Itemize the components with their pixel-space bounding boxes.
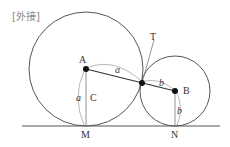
label-m: M — [81, 129, 90, 140]
point-a — [83, 66, 89, 72]
label-n: N — [171, 129, 178, 140]
label-t: T — [150, 31, 156, 42]
external-tangent-circles-diagram: [外接] A B C T M N a a b b — [0, 0, 230, 147]
label-c: C — [90, 92, 97, 103]
label-b-vertical: b — [177, 105, 182, 116]
common-tangent-line — [142, 40, 154, 83]
diagram-canvas: [外接] A B C T M N a a b b — [0, 0, 230, 147]
label-b-arc: b — [159, 77, 164, 88]
label-a: A — [79, 54, 87, 65]
diagram-title: [外接] — [12, 10, 40, 22]
tangent-point — [139, 80, 145, 86]
label-a-arc: a — [115, 64, 120, 75]
point-b — [172, 88, 178, 94]
label-a-vertical: a — [76, 92, 81, 103]
label-b: B — [183, 85, 190, 96]
